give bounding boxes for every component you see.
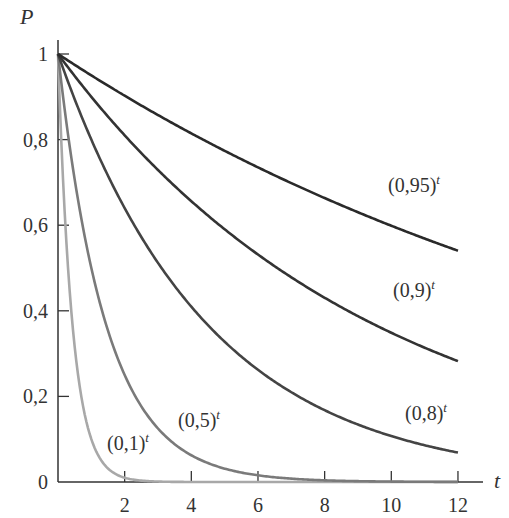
x-tick-label: 10	[381, 495, 401, 515]
y-axis-label: P	[20, 6, 33, 28]
chart-plot-area	[0, 0, 509, 518]
x-tick-label: 12	[448, 495, 468, 515]
curves	[58, 54, 458, 482]
series-label-01: (0,1)t	[107, 433, 149, 453]
axis-ticks	[58, 54, 458, 482]
y-tick-label: 0	[38, 472, 48, 492]
curve-(0,9)^t	[58, 54, 458, 361]
y-tick-label: 0,6	[23, 215, 48, 235]
y-tick-label: 1	[38, 44, 48, 64]
x-tick-label: 4	[186, 495, 196, 515]
y-tick-label: 0,2	[23, 386, 48, 406]
series-label-09: (0,9)t	[393, 280, 435, 300]
y-tick-label: 0,4	[23, 301, 48, 321]
curve-(0,1)^t	[58, 54, 458, 482]
series-label-08: (0,8)t	[405, 403, 447, 423]
x-tick-label: 2	[120, 495, 130, 515]
curve-(0,5)^t	[58, 54, 458, 482]
y-tick-label: 0,8	[23, 130, 48, 150]
x-axis-label: t	[494, 470, 500, 492]
x-tick-label: 8	[320, 495, 330, 515]
x-tick-label: 6	[253, 495, 263, 515]
series-label-095: (0,95)t	[388, 175, 440, 195]
series-label-05: (0,5)t	[178, 410, 220, 430]
curve-(0,95)^t	[58, 54, 458, 251]
